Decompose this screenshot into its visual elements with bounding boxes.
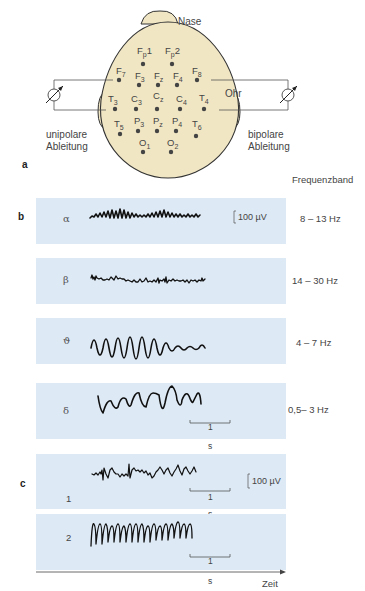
time-axis [0,0,365,591]
trace-2-time-unit: s [208,576,212,586]
time-axis-label: Zeit [262,578,278,589]
